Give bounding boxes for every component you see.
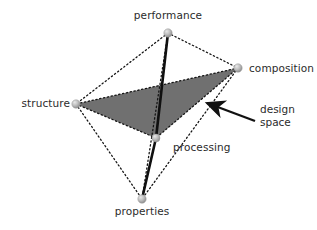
design-space-annotation: design space xyxy=(260,103,295,129)
vertex-node-composition[interactable] xyxy=(234,64,242,72)
design-space-line-1: design xyxy=(260,103,295,116)
vertex-label-processing: processing xyxy=(173,141,231,153)
vertex-label-performance: performance xyxy=(134,9,202,21)
vertex-node-performance[interactable] xyxy=(164,29,172,37)
edge-performance-composition xyxy=(168,33,238,68)
vertex-node-processing[interactable] xyxy=(152,134,160,142)
vertex-label-structure: structure xyxy=(21,97,70,109)
vertex-label-properties: properties xyxy=(115,205,170,217)
design-space-line-2: space xyxy=(260,116,295,129)
edge-processing-properties-solid xyxy=(142,138,156,199)
design-space-arrow xyxy=(207,103,255,121)
vertex-label-composition: composition xyxy=(249,62,314,74)
vertex-node-structure[interactable] xyxy=(72,100,80,108)
tetrahedron-diagram: performance composition structure proces… xyxy=(0,0,317,230)
vertex-node-properties[interactable] xyxy=(138,195,146,203)
